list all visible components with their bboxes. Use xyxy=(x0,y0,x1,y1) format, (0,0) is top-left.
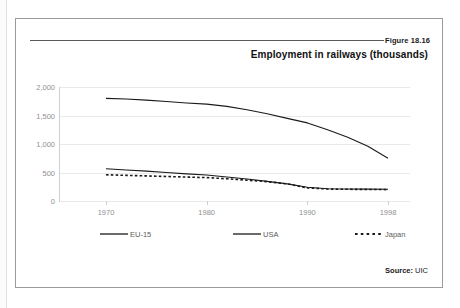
x-axis-tick-label: 1998 xyxy=(380,208,397,217)
chart-title: Employment in railways (thousands) xyxy=(251,49,428,60)
y-axis-tick-label: 2,000 xyxy=(36,83,55,92)
x-axis-tick-mark xyxy=(207,201,208,205)
series-line-eu-15 xyxy=(106,98,388,158)
plot-area: 05001,0001,5002,000 1970198019901998 xyxy=(59,87,410,202)
source-note: Source: UIC xyxy=(385,266,428,275)
x-axis-tick-label: 1970 xyxy=(98,208,115,217)
x-axis-tick-mark xyxy=(307,201,308,205)
page-edge xyxy=(0,0,7,308)
legend-swatch-solid-icon xyxy=(100,229,128,239)
legend-item-japan[interactable]: Japan xyxy=(355,227,405,241)
gridline xyxy=(60,201,410,202)
series-line-usa xyxy=(106,169,388,190)
header-rule xyxy=(30,40,384,41)
y-axis-tick-label: 1,500 xyxy=(36,111,55,120)
y-axis-tick-label: 500 xyxy=(42,168,55,177)
series-line-japan xyxy=(106,175,388,190)
y-axis-tick-label: 1,000 xyxy=(36,140,55,149)
legend-label: EU-15 xyxy=(130,230,151,239)
chart-legend: EU-15USAJapan xyxy=(30,227,430,241)
x-axis-tick-mark xyxy=(388,201,389,205)
x-axis-tick-label: 1980 xyxy=(198,208,215,217)
source-label: Source: xyxy=(385,266,413,275)
y-axis-tick-label: 0 xyxy=(51,197,55,206)
legend-label: Japan xyxy=(385,230,405,239)
legend-swatch-solid-icon xyxy=(233,229,261,239)
figure-container: Figure 18.16 Employment in railways (tho… xyxy=(15,18,443,288)
x-axis-tick-mark xyxy=(106,201,107,205)
legend-label: USA xyxy=(263,230,278,239)
figure-header: Figure 18.16 xyxy=(30,34,430,46)
source-value: UIC xyxy=(415,266,428,275)
x-axis-tick-label: 1990 xyxy=(299,208,316,217)
legend-swatch-dotted-icon xyxy=(355,229,383,239)
legend-item-eu-15[interactable]: EU-15 xyxy=(100,227,151,241)
figure-number: Figure 18.16 xyxy=(384,36,430,45)
series-lines xyxy=(60,87,410,201)
legend-item-usa[interactable]: USA xyxy=(233,227,278,241)
